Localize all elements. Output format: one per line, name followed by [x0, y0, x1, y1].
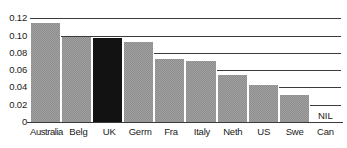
- bar-series: NIL: [30, 14, 341, 122]
- bar-slot: [185, 14, 216, 122]
- nil-annotation: NIL: [310, 111, 341, 121]
- bar-slot: [279, 14, 310, 122]
- x-axis-tick-label: Belg: [63, 126, 94, 146]
- bar-germ[interactable]: [123, 42, 154, 122]
- y-axis-tick-label: 0: [0, 117, 27, 127]
- bar-fra[interactable]: [154, 59, 185, 122]
- x-axis-tick-label: Australia: [30, 126, 63, 146]
- y-axis-tick-label: 0.12: [0, 13, 27, 23]
- bar-belg[interactable]: [61, 37, 92, 122]
- x-axis-tick-label: US: [248, 126, 279, 146]
- bar-slot: [123, 14, 154, 122]
- bar-chart: 0.120.100.080.060.040.020 NIL AustraliaB…: [0, 0, 347, 148]
- bar-australia[interactable]: [30, 23, 61, 122]
- bar-uk[interactable]: [92, 38, 123, 122]
- bar-slot: [154, 14, 185, 122]
- bar-italy[interactable]: [185, 61, 216, 122]
- bar-slot: [30, 14, 61, 122]
- bar-slot: NIL: [310, 14, 341, 122]
- y-axis-tick-label: 0.02: [0, 100, 27, 110]
- y-axis-tick-label: 0.04: [0, 82, 27, 92]
- x-axis-tick-label: Neth: [217, 126, 248, 146]
- plot-area: NIL: [30, 14, 341, 122]
- x-axis-tick-label: Fra: [156, 126, 187, 146]
- bar-slot: [92, 14, 123, 122]
- x-axis-tick-label: Can: [310, 126, 341, 146]
- bar-slot: [248, 14, 279, 122]
- x-axis-tick-label: Italy: [186, 126, 217, 146]
- x-axis-tick-label: UK: [94, 126, 125, 146]
- bar-swe[interactable]: [279, 95, 310, 122]
- bar-slot: [217, 14, 248, 122]
- y-axis: 0.120.100.080.060.040.020: [0, 0, 27, 148]
- x-axis-tick-label: Swe: [279, 126, 310, 146]
- bar-us[interactable]: [248, 85, 279, 122]
- x-axis-line: [27, 122, 343, 123]
- bar-slot: [61, 14, 92, 122]
- bar-neth[interactable]: [217, 75, 248, 122]
- y-axis-tick-label: 0.08: [0, 48, 27, 58]
- y-axis-tick-label: 0.10: [0, 31, 27, 41]
- y-axis-tick-label: 0.06: [0, 65, 27, 75]
- x-axis: AustraliaBelgUKGermFraItalyNethUSSweCan: [30, 126, 341, 146]
- x-axis-tick-label: Germ: [125, 126, 156, 146]
